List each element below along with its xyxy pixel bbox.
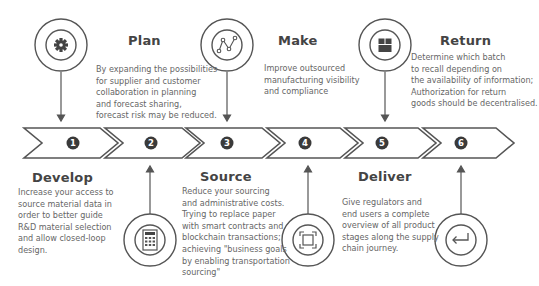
step-number-6: 6	[455, 137, 467, 149]
step-number-2: 2	[145, 137, 157, 149]
step-description-deliver: Give regulators and end users a complete…	[342, 197, 439, 255]
step-title-deliver: Deliver	[358, 169, 412, 184]
step-description-source: Reduce your sourcing and administrative …	[182, 186, 290, 279]
step-description-return: Determine which batch to recall dependin…	[411, 52, 538, 110]
step-number-5: 5	[376, 137, 388, 149]
step-title-return: Return	[440, 33, 491, 48]
step-badges	[67, 137, 468, 150]
step-description-develop: Increase your access to source material …	[18, 187, 114, 257]
step-title-develop: Develop	[32, 170, 93, 185]
step-title-plan: Plan	[128, 33, 161, 48]
step-number-1: 1	[67, 137, 79, 149]
step-title-source: Source	[200, 169, 252, 184]
step-description-plan: By expanding the possibilities for suppl…	[96, 64, 217, 122]
step-number-4: 4	[299, 137, 311, 149]
gear-icon	[54, 38, 68, 52]
step-number-3: 3	[221, 137, 233, 149]
step-description-make: Improve outsourced manufacturing visibil…	[264, 63, 359, 98]
step-title-make: Make	[278, 33, 318, 48]
